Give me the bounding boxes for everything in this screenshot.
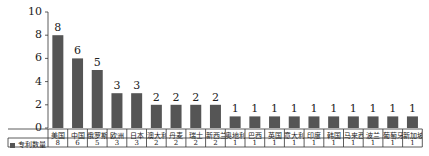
bar (308, 116, 319, 128)
bar (407, 116, 418, 128)
bar-value-label: 1 (267, 102, 283, 115)
y-tick-label: 10 (22, 5, 42, 18)
table-value-cell: 1 (383, 139, 403, 147)
bar-value-label: 1 (345, 102, 361, 115)
bar-value-label: 2 (168, 91, 184, 104)
bar-chart: 0246810专利数量8美国86中国65俄罗斯53欧洲33日本32澳大利亚22丹… (0, 0, 429, 156)
bar-value-label: 1 (306, 102, 322, 115)
bar (72, 58, 83, 128)
bar-value-label: 3 (109, 79, 125, 92)
table-value-cell: 1 (245, 139, 265, 147)
table-value-cell: 6 (68, 139, 88, 147)
bar-value-label: 1 (404, 102, 420, 115)
y-tick-label: 8 (22, 28, 42, 41)
bar (368, 116, 379, 128)
bar (210, 105, 221, 128)
table-value-cell: 1 (284, 139, 304, 147)
y-tick-label: 6 (22, 51, 42, 64)
table-value-cell: 3 (127, 139, 147, 147)
bar-value-label: 2 (148, 91, 164, 104)
bar-value-label: 1 (326, 102, 342, 115)
bar-value-label: 8 (50, 21, 66, 34)
bar-value-label: 1 (365, 102, 381, 115)
bar-value-label: 2 (188, 91, 204, 104)
bar (348, 116, 359, 128)
bar (111, 93, 122, 128)
bar (249, 116, 260, 128)
y-tick-label: 4 (22, 75, 42, 88)
bar (387, 116, 398, 128)
bar-value-label: 1 (286, 102, 302, 115)
y-tick-label: 2 (22, 98, 42, 111)
legend-swatch (10, 143, 15, 148)
table-value-cell: 1 (403, 139, 423, 147)
table-value-cell: 8 (48, 139, 68, 147)
bar (328, 116, 339, 128)
bar (289, 116, 300, 128)
bar (151, 105, 162, 128)
bar-value-label: 1 (385, 102, 401, 115)
table-value-cell: 2 (147, 139, 167, 147)
bar-value-label: 3 (129, 79, 145, 92)
bar-value-label: 1 (247, 102, 263, 115)
table-value-cell: 1 (265, 139, 285, 147)
table-value-cell: 3 (107, 139, 127, 147)
bar (171, 105, 182, 128)
legend-entry: 专利数量 (10, 139, 46, 149)
table-value-cell: 1 (363, 139, 383, 147)
table-value-cell: 1 (324, 139, 344, 147)
bar-value-label: 1 (227, 102, 243, 115)
bar (131, 93, 142, 128)
table-value-cell: 5 (87, 139, 107, 147)
bar (52, 35, 63, 128)
table-value-cell: 2 (206, 139, 226, 147)
table-value-cell: 1 (225, 139, 245, 147)
bar (269, 116, 280, 128)
table-value-cell: 2 (186, 139, 206, 147)
bar-value-label: 2 (207, 91, 223, 104)
bar-value-label: 6 (70, 44, 86, 57)
legend-label: 专利数量 (18, 141, 46, 149)
bar (190, 105, 201, 128)
table-value-cell: 2 (166, 139, 186, 147)
y-tick-label: 0 (22, 121, 42, 134)
table-value-cell: 1 (344, 139, 364, 147)
bar (230, 116, 241, 128)
bar (92, 70, 103, 128)
bar-value-label: 5 (89, 56, 105, 69)
table-value-cell: 1 (304, 139, 324, 147)
